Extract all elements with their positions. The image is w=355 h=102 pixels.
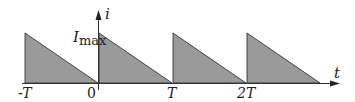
tick-minus-T: -T bbox=[18, 85, 33, 101]
i-axis-label: i bbox=[105, 5, 110, 23]
sawtooth-diagram: i t Imax -T 0 T 2T bbox=[0, 0, 355, 102]
i-axis-arrow-icon bbox=[96, 10, 102, 20]
t-axis-label: t bbox=[334, 64, 341, 82]
tick-2T: 2T bbox=[236, 85, 257, 101]
tick-0: 0 bbox=[87, 85, 96, 101]
imax-label: Imax bbox=[72, 28, 107, 48]
tick-T: T bbox=[167, 85, 178, 101]
pulse-0 bbox=[99, 33, 172, 83]
sawtooth-pulses bbox=[25, 33, 320, 83]
pulse-2T bbox=[247, 33, 320, 83]
pulse-T bbox=[173, 33, 246, 83]
